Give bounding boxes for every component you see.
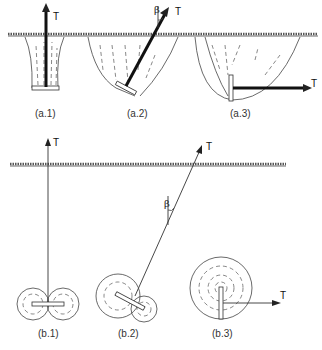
panel-b3: T (b.3) [190,257,286,339]
force-label-T: T [280,290,286,301]
force-label-T: T [311,78,317,89]
arrow-head-icon [196,145,202,154]
anchor-plate [229,75,233,101]
force-label-T: T [53,137,59,148]
panel-a1: T (a.1) [25,3,64,119]
panel-label-a2: (a.2) [127,108,148,119]
panel-b2: T β (b.2) [96,141,212,339]
angle-label-beta: β [164,198,170,209]
anchor-failure-diagram: T (a.1) β T (a.2) T (a.3) T [0,0,322,350]
ground-surface-top [8,34,318,36]
panel-a2: β T (a.2) [88,4,181,119]
anchor-plate [219,287,223,319]
panel-label-b3: (b.3) [212,328,233,339]
anchor-line [135,150,200,296]
force-label-T: T [175,6,181,17]
arrow-head-icon [160,7,169,17]
ground-surface-bottom [10,164,286,166]
panel-label-b1: (b.1) [38,328,59,339]
angle-label-beta: β [154,4,160,15]
panel-label-a1: (a.1) [35,108,56,119]
force-label-T: T [206,141,212,152]
arrow-head-icon [42,3,50,12]
panel-b1: T (b.1) [17,137,79,339]
panel-label-b2: (b.2) [118,328,139,339]
anchor-rod [126,14,165,86]
arrow-head-icon [45,138,51,146]
anchor-plate [115,292,145,311]
panel-label-a3: (a.3) [230,108,251,119]
panel-a3: T (a.3) [195,37,317,119]
anchor-plate [32,302,64,306]
force-label-T: T [53,11,59,22]
